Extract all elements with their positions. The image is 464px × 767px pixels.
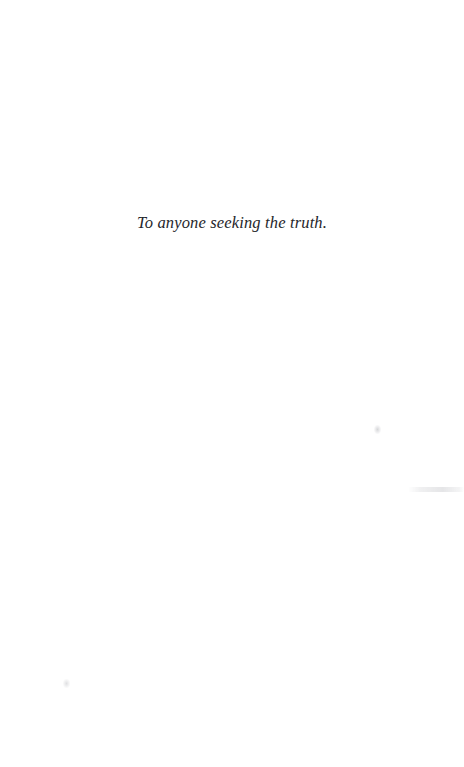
scan-artifact-streak-right — [408, 487, 464, 492]
scan-artifact-speck-left — [63, 679, 70, 688]
dedication-block: To anyone seeking the truth. — [0, 212, 464, 234]
scan-artifact-speck-right — [374, 425, 381, 434]
dedication-text: To anyone seeking the truth. — [137, 212, 327, 234]
dedication-page: To anyone seeking the truth. — [0, 0, 464, 767]
